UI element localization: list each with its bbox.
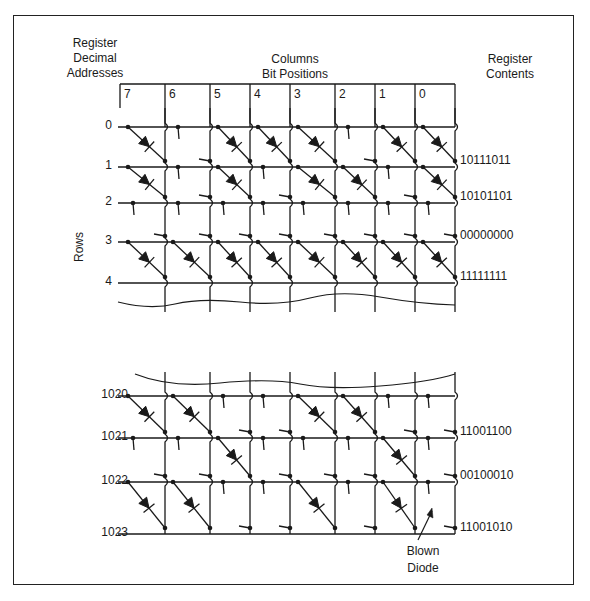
register-contents-value: 11001010: [460, 520, 513, 534]
junction-dot: [163, 430, 168, 435]
junction-dot: [386, 394, 391, 399]
junction-dot: [333, 159, 338, 164]
row-address-label: 2: [72, 194, 112, 208]
junction-dot: [288, 195, 293, 200]
junction-dot: [131, 436, 136, 441]
junction-dot: [163, 195, 168, 200]
junction-dot: [248, 430, 253, 435]
junction-dot: [216, 165, 221, 170]
bit-column-line: [210, 108, 213, 312]
junction-dot: [163, 234, 168, 239]
junction-dot: [248, 234, 253, 239]
bit-column-line: [335, 108, 338, 312]
junction-dot: [126, 240, 131, 245]
junction-dot: [296, 165, 301, 170]
junction-dot: [288, 159, 293, 164]
junction-dot: [333, 275, 338, 280]
junction-dot: [176, 165, 181, 170]
junction-dot: [296, 480, 301, 485]
junction-dot: [373, 159, 378, 164]
junction-dot: [163, 159, 168, 164]
junction-dot: [346, 201, 351, 206]
junction-dot: [208, 526, 213, 531]
row-address-label: 1020: [88, 387, 128, 401]
junction-dot: [216, 436, 221, 441]
break-line: [135, 374, 455, 388]
junction-dot: [296, 394, 301, 399]
junction-dot: [176, 436, 181, 441]
column-bit-label: 7: [124, 87, 131, 101]
column-bit-label: 0: [419, 87, 426, 101]
junction-dot: [386, 165, 391, 170]
diode-icon: [309, 497, 319, 508]
junction-dot: [221, 201, 226, 206]
junction-dot: [208, 234, 213, 239]
junction-dot: [421, 240, 426, 245]
register-contents-value: 00000000: [460, 228, 513, 242]
junction-dot: [381, 480, 386, 485]
junction-dot: [333, 234, 338, 239]
bit-column-line: [375, 108, 378, 312]
blown-diode-annotation: Blown Diode: [398, 543, 448, 577]
column-bit-label: 4: [254, 87, 261, 101]
junction-dot: [248, 275, 253, 280]
junction-dot: [261, 436, 266, 441]
diode-icon: [309, 174, 320, 184]
row-address-label: 1021: [88, 429, 128, 443]
junction-dot: [453, 275, 458, 280]
junction-dot: [301, 436, 306, 441]
junction-dot: [453, 474, 458, 479]
junction-dot: [171, 480, 176, 485]
column-bit-label: 5: [214, 87, 221, 101]
junction-dot: [256, 125, 261, 130]
junction-dot: [248, 526, 253, 531]
junction-dot: [301, 201, 306, 206]
junction-dot: [248, 474, 253, 479]
register-contents-value: 10101101: [460, 189, 513, 203]
junction-dot: [208, 275, 213, 280]
junction-dot: [288, 526, 293, 531]
column-bit-label: 1: [379, 87, 386, 101]
column-bit-label: 6: [169, 87, 176, 101]
junction-dot: [373, 430, 378, 435]
junction-dot: [373, 234, 378, 239]
junction-dot: [216, 125, 221, 130]
junction-dot: [256, 240, 261, 245]
junction-dot: [373, 474, 378, 479]
junction-dot: [208, 430, 213, 435]
junction-dot: [413, 195, 418, 200]
junction-dot: [413, 234, 418, 239]
arrow-head-icon: [427, 508, 433, 518]
junction-dot: [333, 526, 338, 531]
junction-dot: [413, 275, 418, 280]
junction-dot: [176, 201, 181, 206]
junction-dot: [413, 159, 418, 164]
junction-dot: [288, 234, 293, 239]
junction-dot: [381, 436, 386, 441]
junction-dot: [346, 125, 351, 130]
junction-dot: [341, 394, 346, 399]
junction-dot: [176, 125, 181, 130]
bit-column-line: [165, 108, 168, 312]
diode-icon: [139, 497, 149, 508]
junction-dot: [413, 430, 418, 435]
junction-dot: [426, 394, 431, 399]
row-address-label: 1023: [88, 525, 128, 539]
junction-dot: [426, 436, 431, 441]
diode-icon: [184, 497, 194, 508]
junction-dot: [413, 526, 418, 531]
junction-dot: [126, 165, 131, 170]
junction-dot: [131, 201, 136, 206]
annotation-line-2: Diode: [398, 560, 448, 577]
column-bit-label: 2: [339, 87, 346, 101]
row-address-label: 1022: [88, 473, 128, 487]
row-address-label: 4: [72, 274, 112, 288]
row-address-label: 0: [72, 118, 112, 132]
junction-dot: [333, 430, 338, 435]
junction-dot: [208, 195, 213, 200]
junction-dot: [288, 430, 293, 435]
bit-column-line: [455, 108, 458, 312]
bit-column-line: [455, 372, 458, 534]
junction-dot: [296, 240, 301, 245]
diode-icon: [391, 449, 401, 460]
